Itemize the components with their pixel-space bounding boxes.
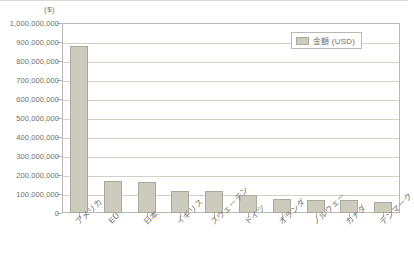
- y-axis-tick-label: 600,000,000: [16, 95, 59, 104]
- y-axis-tick-label: 0: [55, 209, 59, 218]
- y-axis-tick-label: 900,000,000: [16, 38, 59, 47]
- bar: [70, 46, 88, 213]
- y-axis-tick-label: 700,000,000: [16, 76, 59, 85]
- legend-label: 金額 (USD): [313, 35, 355, 46]
- legend: 金額 (USD): [291, 32, 362, 49]
- y-axis-tick-label: 500,000,000: [16, 114, 59, 123]
- y-axis-tick-label: 1,000,000,000: [10, 19, 59, 28]
- y-axis-tick-label: 100,000,000: [16, 190, 59, 199]
- bar: [104, 181, 122, 213]
- legend-swatch-icon: [296, 37, 309, 45]
- y-axis-tick-label: 300,000,000: [16, 152, 59, 161]
- bars-layer: [62, 23, 400, 213]
- y-axis-tick-label: 400,000,000: [16, 133, 59, 142]
- x-axis-tick-label: EU: [107, 211, 122, 226]
- y-axis-tick-label: 200,000,000: [16, 171, 59, 180]
- y-axis-tick-label: 800,000,000: [16, 57, 59, 66]
- y-axis-unit-label: ($): [44, 5, 55, 14]
